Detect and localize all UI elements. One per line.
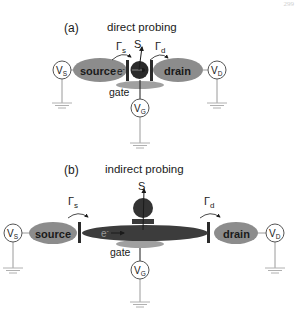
panel-b-label: (b): [64, 163, 79, 177]
gamma-d-arrow: [150, 55, 168, 60]
vd-source: VD: [266, 224, 284, 242]
vd-source: VD: [208, 61, 226, 79]
gamma-d-label: Γd: [155, 40, 166, 55]
panel-a-title: direct probing: [107, 21, 177, 33]
panel-b: (b) indirect probing source drain e- S Γ…: [3, 163, 285, 307]
gamma-s-label: Γs: [116, 40, 126, 55]
drain-barrier: [150, 60, 153, 81]
ground-icon: [265, 268, 285, 273]
source-barrier: [78, 222, 81, 243]
vs-source: VS: [53, 61, 71, 79]
gate-label: gate: [110, 246, 131, 258]
diagram-canvas: (a) direct probing source e- drain Γs S …: [0, 0, 298, 316]
vg-source: VG: [131, 261, 149, 279]
source-label: source: [35, 228, 71, 240]
ground-icon: [52, 103, 72, 108]
signal-label: S: [138, 180, 145, 192]
panel-b-title: indirect probing: [105, 163, 184, 175]
source-label: source: [80, 65, 116, 77]
ground-icon: [130, 143, 150, 148]
ground-icon: [130, 302, 150, 307]
vs-source: VS: [4, 224, 22, 242]
drain-label: drain: [223, 228, 250, 240]
gamma-s-arrow: [68, 214, 88, 218]
ground-icon: [207, 103, 227, 108]
signal-label: S: [134, 38, 141, 50]
gamma-d-arrow: [200, 214, 220, 218]
vg-source: VG: [131, 99, 149, 117]
drain-label: drain: [164, 65, 191, 77]
gamma-d-label: Γd: [204, 195, 215, 210]
panel-a: (a) direct probing source e- drain Γs S …: [52, 21, 227, 148]
gate-label: gate: [109, 86, 130, 98]
gamma-s-arrow: [112, 55, 131, 60]
gamma-s-label: Γs: [68, 195, 78, 210]
ground-icon: [3, 268, 23, 273]
panel-a-label: (a): [64, 21, 79, 35]
source-barrier: [126, 60, 129, 81]
